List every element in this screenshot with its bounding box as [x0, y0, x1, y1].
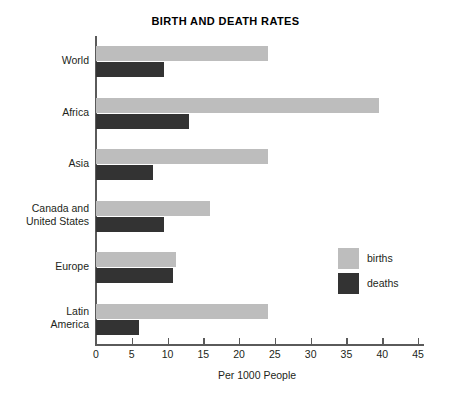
- x-tick-label-25: 25: [260, 348, 290, 360]
- y-axis-label-europe: Europe: [4, 260, 89, 274]
- y-axis-label-latin-america: Latin America: [4, 305, 89, 332]
- x-tick-mark-15: [203, 338, 204, 345]
- x-tick-label-30: 30: [296, 348, 326, 360]
- x-tick-mark-5: [132, 338, 133, 345]
- bar-births-canada-and-united-states: [96, 201, 210, 216]
- y-axis-label-asia: Asia: [4, 157, 89, 171]
- bar-deaths-world: [96, 62, 164, 77]
- bar-deaths-africa: [96, 114, 189, 129]
- x-axis-title: Per 1000 People: [96, 369, 418, 381]
- x-tick-label-20: 20: [224, 348, 254, 360]
- bar-deaths-latin-america: [96, 320, 139, 335]
- x-tick-label-10: 10: [153, 348, 183, 360]
- x-tick-mark-30: [311, 338, 312, 345]
- y-axis-label-world: World: [4, 54, 89, 68]
- y-axis-label-africa: Africa: [4, 106, 89, 120]
- legend-label-deaths: deaths: [367, 277, 399, 289]
- chart-title: BIRTH AND DEATH RATES: [0, 15, 451, 27]
- bar-births-latin-america: [96, 304, 268, 319]
- y-axis-line: [95, 36, 97, 345]
- x-axis-line: [95, 344, 424, 346]
- x-tick-label-45: 45: [403, 348, 433, 360]
- y-axis-label-canada-and-united-states: Canada and United States: [4, 202, 89, 229]
- bar-chart-figure: BIRTH AND DEATH RATES WorldAfricaAsiaCan…: [0, 0, 451, 405]
- x-tick-mark-40: [382, 338, 383, 345]
- legend-swatch-deaths: [338, 273, 359, 294]
- x-tick-label-40: 40: [367, 348, 397, 360]
- x-tick-mark-45: [418, 338, 419, 345]
- bar-births-world: [96, 46, 268, 61]
- x-tick-label-35: 35: [331, 348, 361, 360]
- x-tick-mark-10: [168, 338, 169, 345]
- x-tick-label-5: 5: [117, 348, 147, 360]
- legend-swatch-births: [338, 248, 359, 269]
- bar-births-asia: [96, 149, 268, 164]
- x-tick-mark-20: [239, 338, 240, 345]
- x-tick-label-0: 0: [81, 348, 111, 360]
- x-tick-mark-35: [346, 338, 347, 345]
- x-tick-label-15: 15: [188, 348, 218, 360]
- bar-deaths-europe: [96, 268, 173, 283]
- x-tick-mark-25: [275, 338, 276, 345]
- bar-births-africa: [96, 98, 379, 113]
- legend-label-births: births: [367, 252, 393, 264]
- bar-deaths-asia: [96, 165, 153, 180]
- bar-deaths-canada-and-united-states: [96, 217, 164, 232]
- bar-births-europe: [96, 252, 176, 267]
